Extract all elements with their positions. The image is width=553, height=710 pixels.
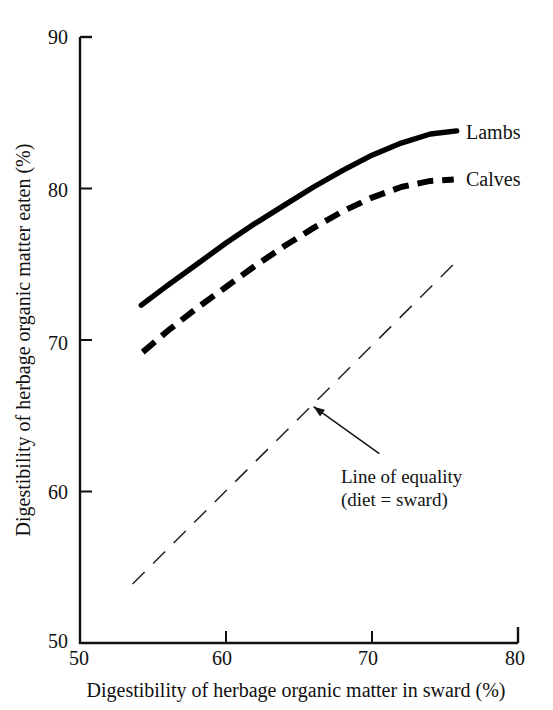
x-tick-label-60: 60 bbox=[212, 648, 232, 668]
y-axis-title: Digestibility of herbage organic matter … bbox=[12, 144, 35, 537]
x-tick-label-80: 80 bbox=[505, 648, 525, 668]
x-tick-label-70: 70 bbox=[358, 648, 378, 668]
y-tick-label-80: 80 bbox=[48, 180, 68, 200]
line-of-equality bbox=[133, 260, 459, 584]
lambs-series-curve bbox=[141, 131, 456, 305]
axis-lines bbox=[80, 37, 518, 643]
y-tick-label-70: 70 bbox=[48, 333, 68, 353]
y-tick-label-50: 50 bbox=[48, 631, 68, 651]
chart-figure: Digestibility of herbage organic matter … bbox=[0, 0, 553, 710]
y-tick-label-60: 60 bbox=[48, 482, 68, 502]
calves-series-curve bbox=[143, 179, 454, 352]
y-tick-label-90: 90 bbox=[48, 27, 68, 47]
series-label-lambs: Lambs bbox=[466, 122, 520, 142]
equality-annotation-line1: Line of equality bbox=[341, 466, 462, 487]
x-tick-label-50: 50 bbox=[69, 648, 89, 668]
chart-canvas: Digestibility of herbage organic matter … bbox=[0, 0, 553, 710]
equality-annotation-line2: (diet = sward) bbox=[341, 489, 448, 510]
x-axis-title: Digestibility of herbage organic matter … bbox=[87, 679, 506, 702]
equality-annotation-arrow bbox=[314, 407, 380, 454]
series-label-calves: Calves bbox=[466, 169, 520, 189]
